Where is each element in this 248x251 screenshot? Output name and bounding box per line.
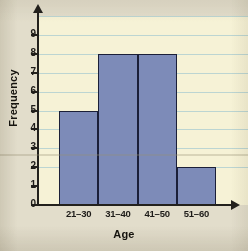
y-axis-tick-label: 5 [22,105,36,115]
y-axis-tick-label: 4 [22,123,36,133]
y-axis-tick-label: 7 [22,67,36,77]
y-axis-tick-label: 9 [22,29,36,39]
x-axis-tick-label: 21–30 [59,208,98,219]
x-axis-tick-label: 31–40 [98,208,137,219]
x-axis-arrow-icon [231,200,240,210]
y-axis-tick-label: 6 [22,86,36,96]
y-axis-line [37,12,39,206]
bar [177,167,216,205]
y-axis-tick-label: 1 [22,180,36,190]
y-axis-arrow-icon [33,4,43,13]
x-axis-title: Age [0,228,248,240]
y-axis-tick-label: 2 [22,161,36,171]
bar [59,111,98,206]
x-axis-line [37,204,233,206]
bar [98,54,137,205]
y-axis-tick-label: 0 [22,199,36,209]
y-axis-tick-label: 3 [22,142,36,152]
y-axis-title: Frequency [7,57,19,139]
x-axis-tick-label: 41–50 [138,208,177,219]
x-axis-tick-label: 51–60 [177,208,216,219]
bar [138,54,177,205]
y-axis-tick-label: 8 [22,48,36,58]
histogram-figure: 0123456789 21–3031–4041–5051–60 Age Freq… [0,0,248,251]
